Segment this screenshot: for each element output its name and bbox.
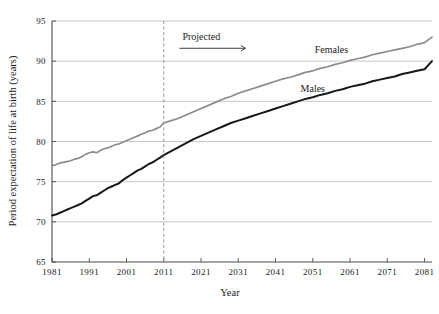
x-tick-label-1981: 1981 — [42, 267, 62, 277]
x-tick-label-2061: 2061 — [340, 267, 360, 277]
y-tick-label-95: 95 — [36, 16, 46, 26]
y-axis-title: Period expectation of life at birth (yea… — [7, 55, 19, 226]
x-tick-label-2051: 2051 — [303, 267, 323, 277]
life-expectancy-chart: 65707580859095 1981199120012011202120312… — [0, 0, 439, 314]
series-line-males — [52, 61, 432, 215]
x-tick-label-2001: 2001 — [117, 267, 137, 277]
projected-label: Projected — [182, 31, 220, 42]
y-tick-label-75: 75 — [36, 177, 46, 187]
x-tick-label-2011: 2011 — [154, 267, 173, 277]
y-axis-tick-labels: 65707580859095 — [36, 16, 46, 267]
series-labels: FemalesMales — [301, 44, 349, 94]
y-tick-label-90: 90 — [36, 56, 46, 66]
x-axis-tick-labels: 1981199120012011202120312041205120612071… — [42, 267, 434, 277]
x-tick-label-2071: 2071 — [377, 267, 397, 277]
x-axis-title: Year — [220, 287, 240, 298]
y-tick-label-85: 85 — [36, 97, 46, 107]
x-tick-label-2031: 2031 — [228, 267, 248, 277]
y-tick-label-65: 65 — [36, 257, 46, 267]
gridlines — [52, 21, 432, 222]
y-tick-label-70: 70 — [36, 217, 46, 227]
x-tick-label-2041: 2041 — [266, 267, 286, 277]
x-tick-label-2021: 2021 — [191, 267, 211, 277]
y-tick-label-80: 80 — [36, 137, 46, 147]
data-series — [52, 37, 432, 215]
series-label-females: Females — [315, 44, 348, 55]
series-label-males: Males — [301, 83, 326, 94]
chart-canvas: 65707580859095 1981199120012011202120312… — [0, 0, 439, 314]
x-tick-label-2081: 2081 — [415, 267, 435, 277]
x-tick-label-1991: 1991 — [79, 267, 99, 277]
